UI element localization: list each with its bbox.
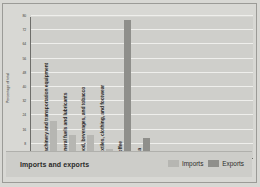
y-tick-label: 32 <box>22 100 26 103</box>
chart-footer: Imports and exports Imports Exports <box>6 151 252 177</box>
category-label: Food, beverages, and tobacco <box>81 87 86 156</box>
y-tick-label: 56 <box>22 58 26 61</box>
plot-area: Machinery and transportation equipmentMi… <box>30 17 253 159</box>
gridline <box>31 15 253 16</box>
bar <box>124 20 131 158</box>
y-tick-label: 72 <box>22 29 26 32</box>
legend-label-imports: Imports <box>182 160 203 167</box>
legend-item-exports: Exports <box>208 160 244 167</box>
legend-item-imports: Imports <box>168 160 203 167</box>
y-tick-label: 48 <box>22 72 26 75</box>
y-axis-ticks: 08162432404856647280 <box>3 17 28 159</box>
legend-swatch-exports <box>208 160 219 167</box>
legend-label-exports: Exports <box>222 160 244 167</box>
figure-frame: Percentage of total 08162432404856647280… <box>2 3 257 183</box>
y-tick-label: 40 <box>22 86 26 89</box>
y-tick-label: 24 <box>22 115 26 118</box>
y-tick-label: 16 <box>22 129 26 132</box>
legend-swatch-imports <box>168 160 179 167</box>
chart-figure: Percentage of total 08162432404856647280… <box>0 0 260 187</box>
category-label: Machinery and transportation equipment <box>44 63 49 156</box>
y-tick-label: 64 <box>22 44 26 47</box>
category-label: Mineral fuels and lubricants <box>63 93 68 156</box>
chart-legend: Imports Exports <box>168 160 244 167</box>
y-tick-label: 80 <box>22 15 26 18</box>
y-tick-label: 8 <box>24 143 26 146</box>
category-label: Textiles, clothing, and footwear <box>100 85 105 156</box>
chart-title: Imports and exports <box>20 161 89 168</box>
